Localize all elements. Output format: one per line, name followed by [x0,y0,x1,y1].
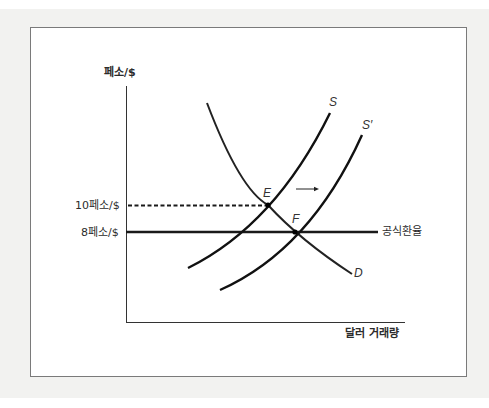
tick-label-10: 10페소/$ [75,200,120,211]
chart-canvas [0,0,489,408]
point-F-label: F [292,213,299,225]
curve-D-label: D [354,267,363,279]
x-axis-label: 달러 거래량 [345,328,399,339]
arrow-right-icon [296,187,319,191]
point-F-marker [292,229,297,234]
demand-curve-D [207,103,352,274]
official-rate-label: 공식환율 [382,226,422,237]
point-E-label: E [263,187,271,199]
curve-S-prime-label: S′ [362,119,372,131]
y-axis-label: 페소/$ [104,67,136,78]
supply-curve-S [188,113,330,268]
tick-label-8: 8페소/$ [81,227,119,238]
point-E-marker [265,202,270,207]
curve-S-label: S [329,96,337,108]
